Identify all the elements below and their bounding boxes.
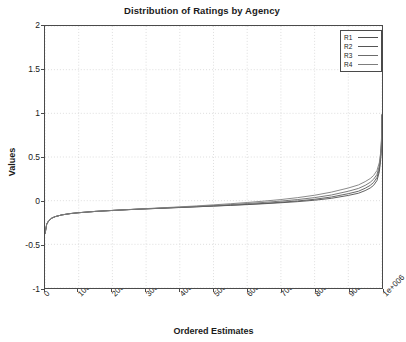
series-lines <box>45 114 382 234</box>
series-line-r2 <box>45 115 382 234</box>
legend-item-r2[interactable]: R2 <box>344 42 379 51</box>
y-tick-label: -0.5 <box>0 240 40 250</box>
y-axis-label: Values <box>7 132 17 192</box>
x-tick-mark <box>213 289 214 292</box>
y-tick-label: 2 <box>0 20 40 30</box>
legend-label: R3 <box>344 51 357 60</box>
x-tick-mark <box>77 289 78 292</box>
y-tick-label: 1 <box>0 108 40 118</box>
x-tick-mark <box>247 289 248 292</box>
legend-label: R4 <box>344 60 357 69</box>
series-line-r1 <box>45 115 382 234</box>
x-tick-mark <box>179 289 180 292</box>
x-tick-label: 1e+006 <box>381 273 406 298</box>
y-tick-label: -1 <box>0 284 40 294</box>
series-line-r4 <box>45 114 382 234</box>
legend-item-r4[interactable]: R4 <box>344 60 379 69</box>
series-line-r3 <box>45 114 382 234</box>
x-tick-mark <box>383 289 384 292</box>
x-tick-mark <box>145 289 146 292</box>
x-axis-label: Ordered Estimates <box>44 326 383 336</box>
plot-area <box>44 25 383 289</box>
y-tick-label: 1.5 <box>0 64 40 74</box>
legend-item-r1[interactable]: R1 <box>344 33 379 42</box>
legend-item-r3[interactable]: R3 <box>344 51 379 60</box>
y-tick-label: 0.5 <box>0 152 40 162</box>
legend-swatch <box>358 37 378 38</box>
x-tick-mark <box>111 289 112 292</box>
x-tick-mark <box>281 289 282 292</box>
legend[interactable]: R1R2R3R4 <box>340 30 382 72</box>
x-tick-mark <box>315 289 316 292</box>
page-title: Distribution of Ratings by Agency <box>0 5 404 16</box>
legend-label: R2 <box>344 42 357 51</box>
y-tick-label: 0 <box>0 196 40 206</box>
plot-canvas <box>45 26 382 288</box>
legend-swatch <box>358 46 378 47</box>
x-tick-mark <box>349 289 350 292</box>
legend-swatch <box>358 55 378 56</box>
legend-label: R1 <box>344 33 357 42</box>
legend-swatch <box>358 64 378 65</box>
x-tick-mark <box>44 289 45 292</box>
gridlines <box>45 26 382 288</box>
